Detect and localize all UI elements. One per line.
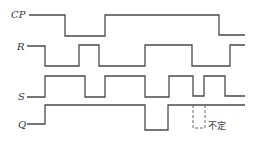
signal-cp: CP (11, 9, 245, 36)
signal-r: R (16, 41, 245, 66)
signal-label-q: Q (18, 119, 26, 130)
signal-label-cp: CP (11, 9, 26, 20)
waveform-cp (29, 15, 245, 36)
timing-diagram: CP R S Q 不定 (0, 0, 262, 141)
undefined-region: 不定 (193, 105, 226, 131)
signal-label-r: R (16, 41, 25, 52)
undefined-label: 不定 (208, 120, 226, 131)
waveform-r (27, 45, 245, 66)
signal-label-s: S (18, 91, 25, 102)
undefined-dashed-box (193, 105, 205, 128)
waveform-s (27, 76, 245, 97)
signal-s: S (18, 76, 245, 102)
